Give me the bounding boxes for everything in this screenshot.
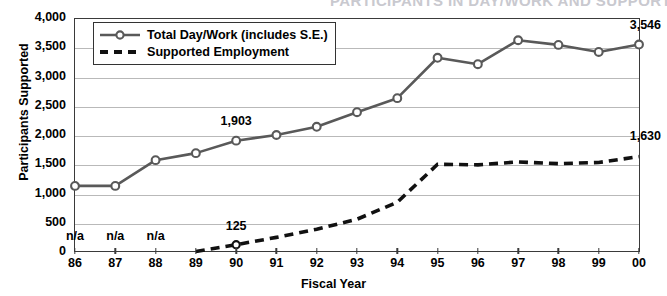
x-axis-tick-label: 94	[390, 256, 404, 270]
series-line-supported-employment	[196, 157, 639, 252]
x-axis-tick-label: 90	[229, 256, 243, 270]
x-axis-tick-labels: 868788899091929394959697989900	[74, 254, 640, 276]
legend-key-dashed-icon	[99, 46, 141, 58]
data-point-marker	[71, 182, 79, 190]
x-axis-tick-label: 86	[68, 256, 82, 270]
y-axis-tick-label: 1,000	[0, 186, 66, 200]
x-axis-tick-mark	[598, 248, 599, 254]
y-axis-tick-label: 4,000	[0, 10, 66, 24]
chart-container: PARTICIPANTS IN DAY/WORK AND SUPPORTED E…	[0, 0, 667, 296]
data-point-marker	[192, 149, 200, 157]
y-axis-tick-label: 2,000	[0, 127, 66, 141]
x-axis-tick-mark	[517, 248, 518, 254]
y-axis-tick-label: 500	[0, 215, 66, 229]
chart-legend: Total Day/Work (includes S.E.) Supported…	[93, 22, 336, 65]
x-axis-tick-mark	[115, 248, 116, 254]
data-point-label: 1,630	[630, 129, 661, 143]
data-point-marker	[595, 48, 603, 56]
x-axis-tick-mark	[155, 248, 156, 254]
y-axis-tick-label: 3,000	[0, 69, 66, 83]
data-point-label: n/a	[106, 229, 124, 243]
x-axis-tick-mark	[276, 248, 277, 254]
legend-item-supported-employment: Supported Employment	[99, 43, 328, 60]
x-axis-tick-label: 00	[632, 256, 646, 270]
y-axis-tick-label: 1,500	[0, 156, 66, 170]
data-point-marker	[353, 108, 361, 116]
x-axis-tick-label: 93	[350, 256, 364, 270]
data-point-marker	[152, 156, 160, 164]
data-point-marker	[635, 41, 643, 49]
x-axis-tick-label: 96	[471, 256, 485, 270]
x-axis-tick-label: 98	[551, 256, 565, 270]
x-axis-tick-mark	[477, 248, 478, 254]
data-point-label: 1,903	[221, 114, 252, 128]
x-axis-tick-mark	[397, 248, 398, 254]
data-point-marker	[313, 123, 321, 131]
data-point-label: n/a	[66, 229, 84, 243]
data-point-label: 3,546	[630, 18, 661, 32]
y-axis-tick-label: 2,500	[0, 98, 66, 112]
x-axis-tick-mark	[558, 248, 559, 254]
x-axis-tick-mark	[235, 248, 236, 254]
y-axis-tick-labels: 05001,0001,5002,0002,5003,0003,5004,000	[0, 0, 72, 296]
legend-key-line-circle-icon	[99, 29, 141, 41]
data-point-marker	[474, 60, 482, 68]
data-point-marker	[232, 137, 240, 145]
x-axis-tick-mark	[316, 248, 317, 254]
x-axis-tick-label: 95	[431, 256, 445, 270]
x-axis-tick-label: 97	[511, 256, 525, 270]
data-point-marker	[273, 131, 281, 139]
data-point-marker	[555, 41, 563, 49]
x-axis-tick-mark	[74, 248, 75, 254]
data-point-label: 125	[226, 219, 247, 233]
x-axis-tick-label: 88	[149, 256, 163, 270]
data-point-marker	[393, 94, 401, 102]
x-axis-title: Fiscal Year	[0, 277, 667, 291]
x-axis-tick-label: 87	[108, 256, 122, 270]
y-axis-tick-label: 0	[0, 244, 66, 258]
x-axis-tick-mark	[356, 248, 357, 254]
data-point-marker	[434, 54, 442, 62]
x-axis-tick-mark	[437, 248, 438, 254]
data-point-marker	[111, 182, 119, 190]
x-axis-tick-label: 99	[592, 256, 606, 270]
x-axis-tick-label: 89	[189, 256, 203, 270]
data-point-marker	[514, 36, 522, 44]
legend-label-supported-employment: Supported Employment	[147, 45, 289, 59]
chart-title: PARTICIPANTS IN DAY/WORK AND SUPPORTED E…	[330, 0, 667, 6]
legend-label-total: Total Day/Work (includes S.E.)	[147, 28, 328, 42]
data-point-label: n/a	[147, 229, 165, 243]
x-axis-tick-mark	[638, 248, 639, 254]
x-axis-tick-label: 92	[310, 256, 324, 270]
legend-item-total: Total Day/Work (includes S.E.)	[99, 26, 328, 43]
y-axis-tick-label: 3,500	[0, 39, 66, 53]
x-axis-tick-mark	[195, 248, 196, 254]
x-axis-tick-label: 91	[269, 256, 283, 270]
